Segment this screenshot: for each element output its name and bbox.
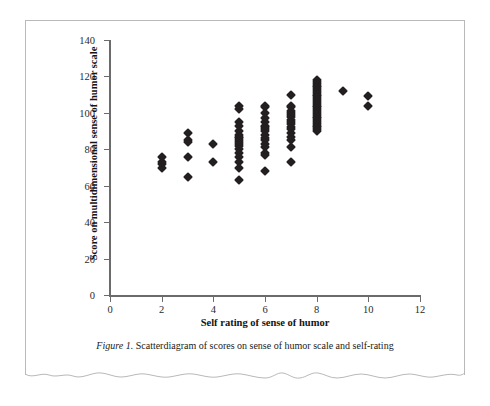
data-point [183,172,193,182]
figure-1: 020406080100120140 024681012 Score on mu… [25,20,465,375]
y-tick: 60 [104,186,110,187]
x-tick [213,296,214,302]
x-tick-label: 2 [159,304,164,315]
figure-number: Figure 1. [96,340,133,351]
y-tick: 40 [104,222,110,223]
x-tick-label: 8 [314,304,319,315]
data-point [234,175,244,185]
x-tick [265,296,266,302]
x-tick-label: 10 [363,304,374,315]
x-tick [162,296,163,302]
data-point [286,90,296,100]
figure-caption-text: Scatterdiagram of scores on sense of hum… [133,340,393,351]
y-tick: 100 [104,113,110,114]
y-tick-label: 0 [90,290,95,301]
data-point [286,157,296,167]
x-tick-label: 0 [107,304,112,315]
y-tick: 120 [104,76,110,77]
figure-caption: Figure 1. Scatterdiagram of scores on se… [25,340,465,351]
scanned-page: 020406080100120140 024681012 Score on mu… [0,0,490,406]
x-tick-label: 12 [415,304,426,315]
data-point [183,152,193,162]
data-point [208,157,218,167]
x-tick-label: 4 [211,304,216,315]
y-tick: 80 [104,149,110,150]
scatter-plot-area: 020406080100120140 024681012 [110,40,420,295]
data-point [208,139,218,149]
x-tick [420,296,421,302]
x-tick [317,296,318,302]
x-tick [110,296,111,302]
y-tick: 140 [104,40,110,41]
data-point [338,86,348,96]
data-point [363,92,373,102]
data-point [363,101,373,111]
x-tick-label: 6 [262,304,267,315]
x-tick [368,296,369,302]
y-axis-title: Score on multidimensional sense of humor… [88,24,99,284]
x-axis-title: Self rating of sense of humor [110,317,420,328]
data-point [260,166,270,176]
data-point [286,143,296,153]
y-tick: 20 [104,259,110,260]
